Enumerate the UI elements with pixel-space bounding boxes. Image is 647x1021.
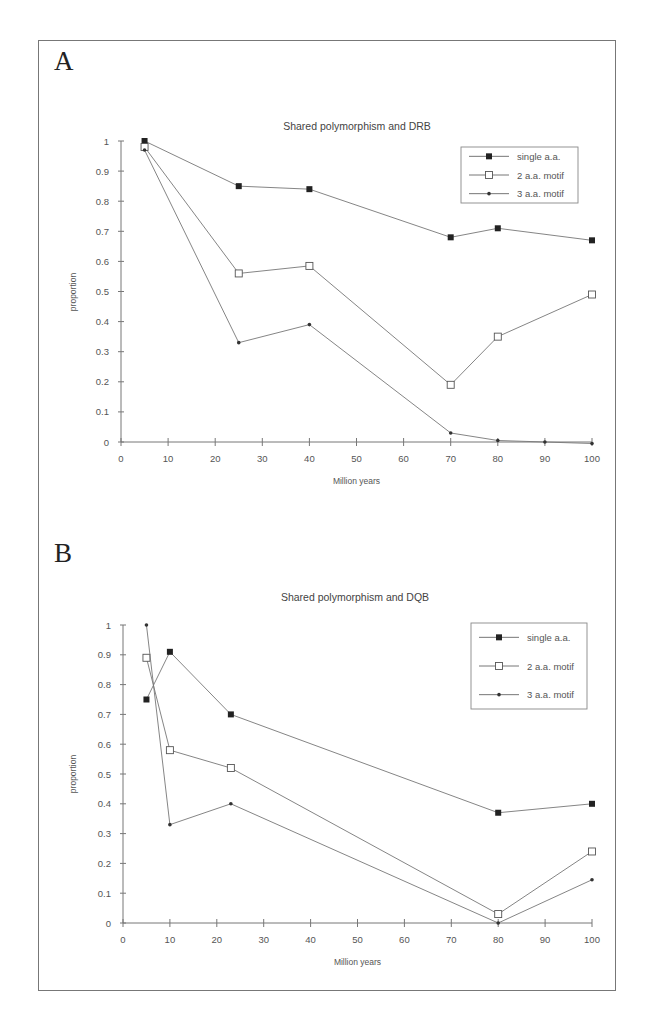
x-tick-label: 60 xyxy=(398,453,409,464)
open-square-marker-icon xyxy=(589,848,596,855)
open-square-marker-icon xyxy=(235,270,242,277)
open-square-marker-icon xyxy=(227,765,234,772)
dot-marker-icon xyxy=(308,323,312,327)
x-tick-label: 10 xyxy=(163,453,174,464)
y-tick-label: 0.1 xyxy=(98,888,111,899)
y-tick-label: 0.3 xyxy=(98,828,111,839)
y-tick-label: 0.2 xyxy=(98,858,111,869)
y-tick-label: 0.7 xyxy=(98,709,111,720)
legend-label: 3 a.a. motif xyxy=(527,689,574,700)
dot-marker-icon xyxy=(497,693,501,697)
x-tick-label: 100 xyxy=(584,453,600,464)
x-tick-label: 70 xyxy=(446,934,457,945)
y-tick-label: 0.3 xyxy=(96,346,109,357)
x-tick-label: 20 xyxy=(212,934,223,945)
chart-a: Shared polymorphism and DRB00.10.20.30.4… xyxy=(0,0,647,1021)
y-tick-label: 0 xyxy=(106,918,111,929)
dot-marker-icon xyxy=(143,148,147,152)
legend: single a.a.2 a.a. motif3 a.a. motif xyxy=(461,147,578,203)
x-tick-label: 40 xyxy=(304,453,315,464)
filled-square-marker-icon xyxy=(167,649,173,655)
y-tick-label: 0.6 xyxy=(96,256,109,267)
open-square-marker-icon xyxy=(447,381,454,388)
x-tick-label: 90 xyxy=(540,934,551,945)
legend-label: 3 a.a. motif xyxy=(517,188,564,199)
dot-marker-icon xyxy=(487,192,491,196)
legend-label: 2 a.a. motif xyxy=(527,661,574,672)
filled-square-marker-icon xyxy=(495,225,501,231)
dot-marker-icon xyxy=(590,442,594,446)
y-tick-label: 1 xyxy=(104,136,109,147)
open-square-marker-icon xyxy=(494,333,501,340)
filled-square-marker-icon xyxy=(143,697,149,703)
y-tick-label: 1 xyxy=(106,620,111,631)
dot-marker-icon xyxy=(145,623,149,627)
x-tick-label: 80 xyxy=(493,453,504,464)
chart-a: Shared polymorphism and DRB00.10.20.30.4… xyxy=(68,120,600,486)
y-tick-label: 0.8 xyxy=(96,196,109,207)
open-square-marker-icon xyxy=(589,291,596,298)
y-tick-label: 0.1 xyxy=(96,406,109,417)
filled-square-marker-icon xyxy=(496,634,502,640)
dot-marker-icon xyxy=(449,431,453,435)
filled-square-marker-icon xyxy=(589,237,595,243)
legend-label: single a.a. xyxy=(527,632,570,643)
x-tick-label: 50 xyxy=(351,453,362,464)
filled-square-marker-icon xyxy=(495,810,501,816)
filled-square-marker-icon xyxy=(589,801,595,807)
y-tick-label: 0.9 xyxy=(98,649,111,660)
y-tick-label: 0 xyxy=(104,437,109,448)
dot-marker-icon xyxy=(590,878,594,882)
x-tick-label: 70 xyxy=(445,453,456,464)
y-tick-label: 0.8 xyxy=(98,679,111,690)
chart-title: Shared polymorphism and DRB xyxy=(283,120,431,132)
legend: single a.a.2 a.a. motif3 a.a. motif xyxy=(471,623,587,709)
y-tick-label: 0.4 xyxy=(96,316,109,327)
x-tick-label: 30 xyxy=(258,934,269,945)
open-square-marker-icon xyxy=(496,663,503,670)
x-tick-label: 80 xyxy=(493,934,504,945)
chart-title: Shared polymorphism and DQB xyxy=(281,591,429,603)
chart-b: Shared polymorphism and DQB00.10.20.30.4… xyxy=(68,591,600,967)
filled-square-marker-icon xyxy=(236,183,242,189)
filled-square-marker-icon xyxy=(486,153,492,159)
y-tick-label: 0.4 xyxy=(98,798,111,809)
x-tick-label: 20 xyxy=(210,453,221,464)
dot-marker-icon xyxy=(496,921,500,925)
x-tick-label: 10 xyxy=(165,934,176,945)
x-tick-label: 90 xyxy=(540,453,551,464)
filled-square-marker-icon xyxy=(228,711,234,717)
dot-marker-icon xyxy=(237,341,241,345)
x-axis-label: Million years xyxy=(333,476,380,486)
dot-marker-icon xyxy=(229,802,233,806)
dot-marker-icon xyxy=(496,439,500,443)
legend-label: 2 a.a. motif xyxy=(517,170,564,181)
open-square-marker-icon xyxy=(495,911,502,918)
open-square-marker-icon xyxy=(166,747,173,754)
y-axis-label: proportion xyxy=(68,755,78,794)
open-square-marker-icon xyxy=(306,262,313,269)
y-axis-label: proportion xyxy=(68,273,78,312)
filled-square-marker-icon xyxy=(448,234,454,240)
y-tick-label: 0.5 xyxy=(96,286,109,297)
x-tick-label: 40 xyxy=(305,934,316,945)
legend-label: single a.a. xyxy=(517,151,560,162)
y-tick-label: 0.7 xyxy=(96,226,109,237)
y-tick-label: 0.9 xyxy=(96,166,109,177)
open-square-marker-icon xyxy=(143,654,150,661)
y-tick-label: 0.5 xyxy=(98,769,111,780)
dot-marker-icon xyxy=(168,823,172,827)
y-tick-label: 0.2 xyxy=(96,376,109,387)
x-tick-label: 0 xyxy=(118,453,123,464)
dot-marker-icon xyxy=(543,440,547,444)
filled-square-marker-icon xyxy=(306,186,312,192)
x-tick-label: 50 xyxy=(352,934,363,945)
x-tick-label: 30 xyxy=(257,453,268,464)
open-square-marker-icon xyxy=(486,172,493,179)
y-tick-label: 0.6 xyxy=(98,739,111,750)
x-tick-label: 100 xyxy=(584,934,600,945)
x-tick-label: 0 xyxy=(120,934,125,945)
x-tick-label: 60 xyxy=(399,934,410,945)
x-axis-label: Million years xyxy=(334,957,381,967)
